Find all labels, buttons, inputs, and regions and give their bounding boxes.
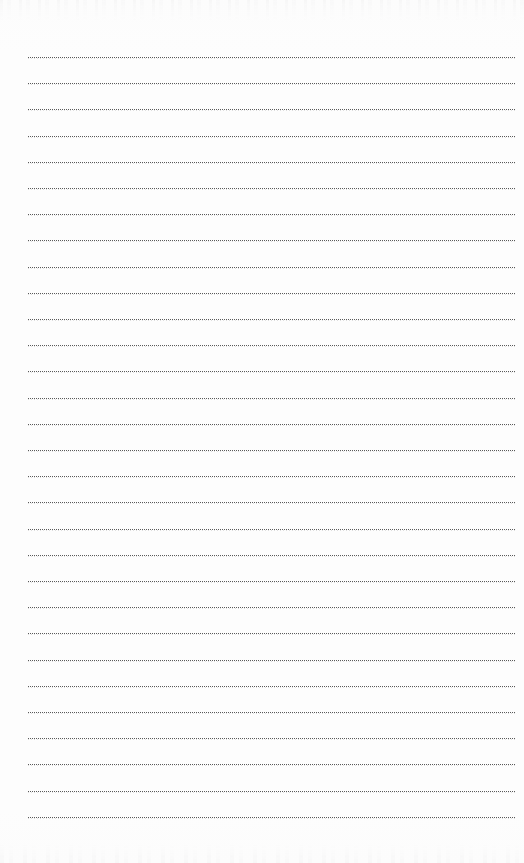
- rule-line: [28, 555, 516, 557]
- rule-line: [28, 581, 516, 583]
- rule-line: [28, 712, 516, 714]
- rule-line: [28, 136, 516, 138]
- rule-line: [28, 502, 516, 504]
- rule-line: [28, 817, 516, 819]
- rule-line: [28, 188, 516, 190]
- rule-line: [28, 162, 516, 164]
- rule-line: [28, 660, 516, 662]
- ruled-writing-area[interactable]: [0, 0, 524, 863]
- rule-line: [28, 267, 516, 269]
- rule-line: [28, 633, 516, 635]
- rule-line: [28, 791, 516, 793]
- rule-line: [28, 57, 516, 59]
- notebook-page: [0, 0, 524, 863]
- rule-line: [28, 764, 516, 766]
- rule-line: [28, 240, 516, 242]
- rule-line: [28, 214, 516, 216]
- rule-line: [28, 607, 516, 609]
- rule-line: [28, 398, 516, 400]
- rule-line: [28, 83, 516, 85]
- rule-line: [28, 293, 516, 295]
- rule-line: [28, 476, 516, 478]
- rule-line: [28, 345, 516, 347]
- rule-line: [28, 738, 516, 740]
- rule-line: [28, 109, 516, 111]
- rule-line: [28, 529, 516, 531]
- rule-line: [28, 424, 516, 426]
- rule-line: [28, 319, 516, 321]
- rule-line: [28, 686, 516, 688]
- rule-line: [28, 450, 516, 452]
- rule-line: [28, 371, 516, 373]
